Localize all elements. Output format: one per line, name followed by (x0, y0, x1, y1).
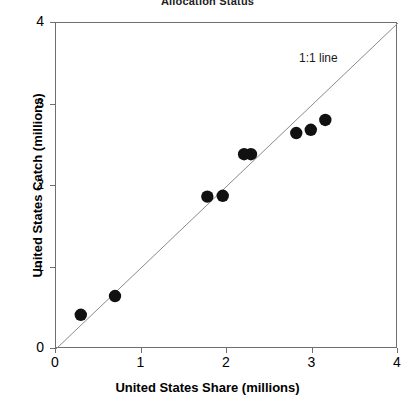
y-tick-mark (50, 185, 55, 186)
x-tick-mark (312, 348, 313, 353)
data-point (75, 309, 87, 321)
data-point (305, 124, 317, 136)
x-tick-label: 2 (206, 354, 246, 370)
data-point (290, 127, 302, 139)
x-tick-label: 4 (377, 354, 415, 370)
x-tick-label: 1 (121, 354, 161, 370)
plot-canvas (56, 23, 398, 349)
x-tick-label: 3 (292, 354, 332, 370)
y-tick-label: 0 (18, 339, 44, 355)
x-tick-mark (397, 348, 398, 353)
data-point (245, 148, 257, 160)
y-axis-title: United States Catch (millions) (30, 36, 45, 336)
plot-area (55, 22, 397, 348)
x-tick-mark (226, 348, 227, 353)
scatter-chart-figure: Allocation Status 01234 01234 1:1 line U… (0, 0, 415, 412)
reference-line-1-to-1 (56, 23, 398, 349)
x-tick-mark (55, 348, 56, 353)
y-tick-mark (50, 348, 55, 349)
chart-title: Allocation Status (0, 0, 415, 5)
data-point-markers (75, 114, 332, 321)
x-tick-mark (141, 348, 142, 353)
data-point (319, 114, 331, 126)
y-tick-mark (50, 267, 55, 268)
y-tick-label: 4 (18, 13, 44, 29)
x-axis-title: United States Share (millions) (0, 380, 415, 395)
data-point (109, 290, 121, 302)
data-point (217, 190, 229, 202)
x-tick-label: 0 (35, 354, 75, 370)
reference-line (56, 23, 398, 349)
y-tick-mark (50, 22, 55, 23)
reference-line-annotation: 1:1 line (299, 51, 338, 65)
data-point (201, 190, 213, 202)
y-tick-mark (50, 104, 55, 105)
